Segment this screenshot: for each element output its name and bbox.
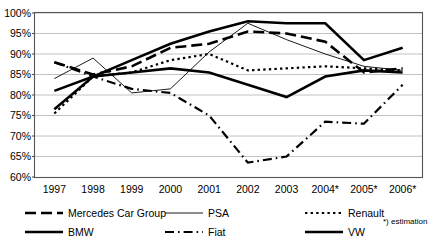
x-axis-tick-label: 2002: [236, 183, 260, 195]
line-chart: 60%65%70%75%80%85%90%95%100% 19971998199…: [0, 0, 441, 249]
y-axis-tick-label: 70%: [10, 130, 31, 142]
legend-label-bmw: BMW: [68, 226, 94, 238]
legend-label-psa: PSA: [208, 207, 229, 219]
x-axis-tick-label: 2001: [197, 183, 221, 195]
legend-label-vw: VW: [348, 226, 365, 238]
legend-label-fiat: Fiat: [208, 226, 226, 238]
x-axis-tick-label: 1999: [120, 183, 144, 195]
y-axis-tick-label: 80%: [10, 89, 31, 101]
x-axis-tick-label: 2005*: [350, 183, 377, 195]
y-axis-tick-label: 60%: [10, 171, 31, 183]
x-axis-tick-label: 1997: [43, 183, 67, 195]
y-axis-tick-label: 75%: [10, 109, 31, 121]
x-axis-tick-label: 2004*: [312, 183, 339, 195]
chart-container: 60%65%70%75%80%85%90%95%100% 19971998199…: [0, 0, 441, 249]
x-axis-tick-label: 2003: [275, 183, 299, 195]
y-axis-tick-label: 95%: [10, 27, 31, 39]
y-axis-tick-label: 85%: [10, 68, 31, 80]
y-axis-tick-label: 90%: [10, 48, 31, 60]
y-axis-tick-label: 65%: [10, 150, 31, 162]
x-axis-tick-label: 2000: [159, 183, 183, 195]
estimation-footnote: *) estimation: [383, 217, 427, 226]
x-axis-tick-label: 1998: [81, 183, 105, 195]
x-axis-tick-label: 2006*: [389, 183, 416, 195]
legend-label-mercedes-car-group: Mercedes Car Group: [68, 207, 166, 219]
legend-label-renault: Renault: [348, 207, 384, 219]
y-axis-tick-label: 100%: [4, 7, 31, 19]
